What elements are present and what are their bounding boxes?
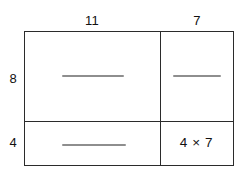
column-label-7: 7: [160, 13, 234, 29]
area-model-diagram: 11 7 8 4 4 × 7: [0, 0, 242, 177]
row-label-4: 4: [4, 135, 22, 151]
area-model-rectangle: 4 × 7: [24, 31, 234, 166]
row-label-8: 8: [4, 71, 22, 87]
cell-top-left[interactable]: [25, 32, 159, 120]
cell-bottom-right[interactable]: 4 × 7: [161, 122, 232, 164]
cell-bottom-left[interactable]: [25, 122, 159, 164]
cell-top-right[interactable]: [161, 32, 232, 120]
blank-answer-line[interactable]: [62, 144, 126, 146]
blank-answer-line[interactable]: [62, 75, 124, 77]
cell-expression-4x7: 4 × 7: [180, 135, 213, 151]
column-label-11: 11: [24, 13, 160, 29]
blank-answer-line[interactable]: [173, 75, 221, 77]
